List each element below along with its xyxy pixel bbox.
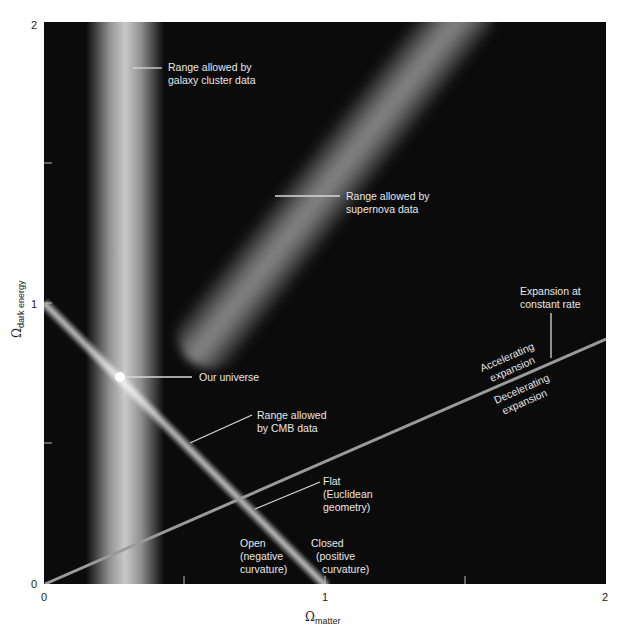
y-tick-2: 2 <box>31 19 37 31</box>
x-tick-2: 2 <box>602 591 608 603</box>
y-tick-1: 1 <box>31 298 37 310</box>
x-axis-label: Ωmatter <box>305 610 340 626</box>
y-axis-label: Ωdark energy <box>10 280 26 338</box>
constant-rate-label: Expansion at constant rate <box>520 285 584 310</box>
y-tick-0: 0 <box>31 578 37 590</box>
cosmology-chart: Range allowed by galaxy cluster data Ran… <box>0 0 620 634</box>
our-universe-point <box>115 372 125 382</box>
galaxy-cluster-band <box>86 22 164 584</box>
our-universe-label: Our universe <box>199 371 259 383</box>
galaxy-cluster-label: Range allowed by galaxy cluster data <box>168 61 256 86</box>
x-tick-0: 0 <box>41 591 47 603</box>
x-tick-1: 1 <box>322 591 328 603</box>
